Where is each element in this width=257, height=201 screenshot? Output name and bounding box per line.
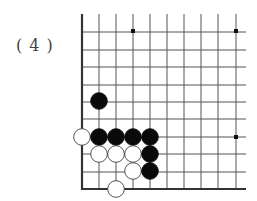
black-stone [108, 129, 125, 146]
black-stone [125, 129, 142, 146]
black-stone [142, 129, 159, 146]
white-stone [74, 129, 91, 146]
black-stone [91, 93, 108, 110]
black-stone [142, 146, 159, 163]
white-stone [108, 181, 125, 198]
black-stone [91, 129, 108, 146]
white-stone [125, 146, 142, 163]
black-stone [142, 163, 159, 180]
go-board [0, 0, 257, 201]
star-point [131, 29, 135, 33]
white-stone [108, 146, 125, 163]
star-point [234, 135, 238, 139]
white-stone [125, 163, 142, 180]
star-point [234, 29, 238, 33]
white-stone [91, 146, 108, 163]
